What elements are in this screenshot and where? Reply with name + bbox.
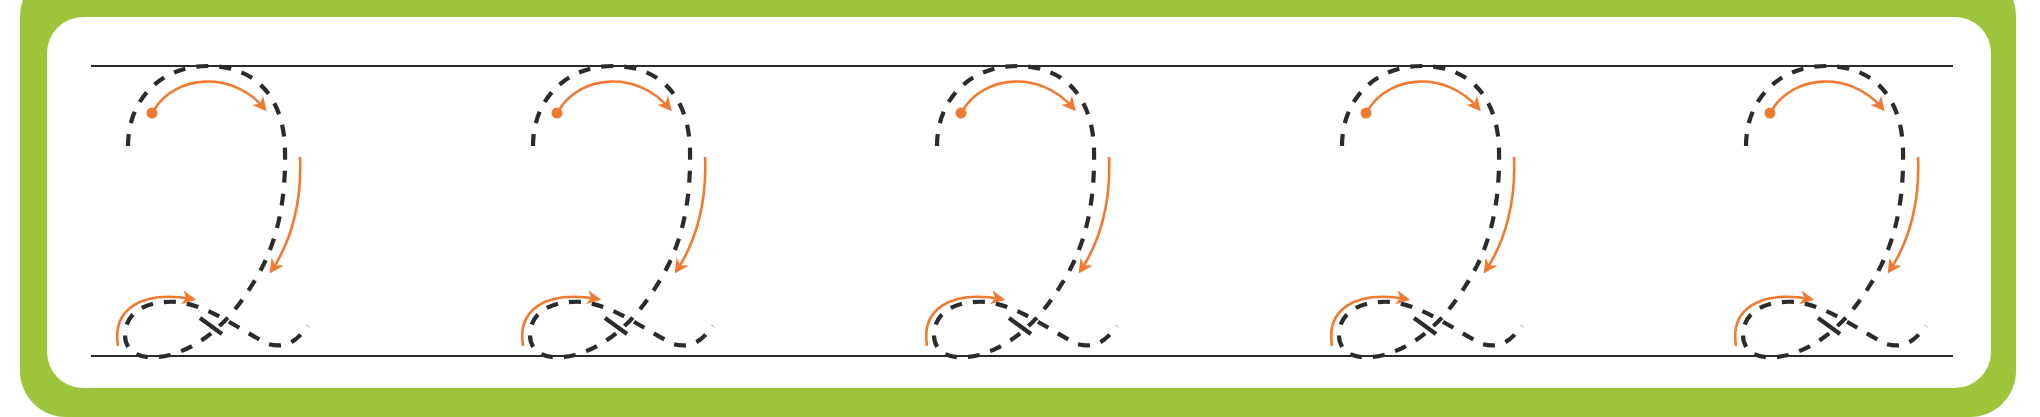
tracing-glyph-2[interactable] <box>1735 66 1926 357</box>
tracing-glyph-2[interactable] <box>1331 66 1522 357</box>
tracing-glyph-2[interactable] <box>522 66 713 357</box>
tracing-canvas[interactable] <box>0 0 2040 417</box>
tracing-glyph-2[interactable] <box>926 66 1117 357</box>
tracing-glyph-2[interactable] <box>117 66 308 357</box>
